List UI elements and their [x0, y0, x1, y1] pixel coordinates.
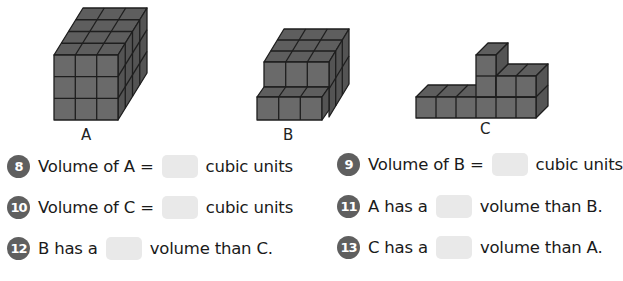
question-number-badge: 8: [7, 155, 30, 178]
answer-blank[interactable]: [162, 196, 198, 219]
answer-blank[interactable]: [436, 236, 472, 259]
answer-blank[interactable]: [492, 153, 528, 176]
question-13: 13 C has a volume than A.: [337, 236, 602, 259]
question-12: 12 B has a volume than C.: [7, 237, 273, 260]
answer-blank[interactable]: [436, 195, 472, 218]
question-text-after: volume than A.: [480, 238, 603, 257]
figure-c-label: C: [480, 120, 490, 138]
answer-blank[interactable]: [106, 237, 142, 260]
figure-a-cube-prism: [0, 0, 210, 130]
question-text-before: Volume of C =: [38, 198, 154, 217]
question-text-before: C has a: [368, 238, 428, 257]
question-text-before: B has a: [38, 239, 98, 258]
question-text-before: A has a: [368, 197, 428, 216]
figure-c-l-shape: [405, 30, 565, 125]
question-text-after: volume than C.: [150, 239, 273, 258]
question-11: 11 A has a volume than B.: [337, 195, 603, 218]
question-number-badge: 13: [337, 236, 360, 259]
question-number-badge: 10: [7, 196, 30, 219]
question-text-after: volume than B.: [480, 197, 603, 216]
question-text-after: cubic units: [536, 155, 623, 174]
figure-b-stepped-prism: [230, 0, 410, 130]
figure-b-label: B: [283, 126, 293, 144]
question-8: 8 Volume of A = cubic units: [7, 155, 293, 178]
question-text-after: cubic units: [206, 157, 293, 176]
question-number-badge: 12: [7, 237, 30, 260]
question-text-before: Volume of B =: [368, 155, 484, 174]
figure-a-label: A: [81, 126, 91, 144]
question-number-badge: 9: [337, 153, 360, 176]
question-9: 9 Volume of B = cubic units: [337, 153, 623, 176]
question-text-before: Volume of A =: [38, 157, 154, 176]
question-10: 10 Volume of C = cubic units: [7, 196, 293, 219]
question-number-badge: 11: [337, 195, 360, 218]
question-text-after: cubic units: [206, 198, 293, 217]
answer-blank[interactable]: [162, 155, 198, 178]
